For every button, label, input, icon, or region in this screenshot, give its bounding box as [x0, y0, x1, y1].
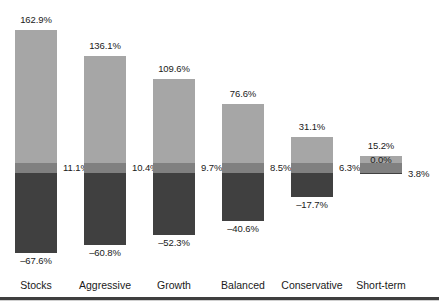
bar-label-average: 8.5% — [270, 162, 291, 173]
bar-label-low: 0.0% — [370, 154, 391, 165]
bar-segment-low — [222, 173, 264, 221]
bar-segment-low — [360, 173, 402, 174]
bar-label-low: –17.7% — [296, 199, 328, 210]
bar-segment-high — [153, 79, 195, 163]
category-label-aggressive: Aggressive — [79, 278, 131, 293]
bar-segment-high — [291, 137, 333, 163]
bar-label-high: 76.6% — [230, 88, 256, 99]
bar-label-low: –40.6% — [227, 223, 259, 234]
axis-baseline-shadow — [0, 300, 439, 301]
bar-group-short-term[interactable]: 15.2% 0.0% 3.8% — [360, 0, 402, 278]
bar-label-high: 162.9% — [20, 14, 52, 25]
bar-label-average: 9.7% — [201, 162, 222, 173]
bar-group-conservative[interactable]: 31.1% 6.3% –17.7% — [291, 0, 333, 278]
bar-label-high: 136.1% — [89, 40, 121, 51]
bar-segment-low — [84, 173, 126, 245]
bar-segment-average — [153, 163, 195, 173]
bar-group-growth[interactable]: 109.6% 9.7% –52.3% — [153, 0, 195, 278]
bar-label-average: 6.3% — [339, 162, 360, 173]
bar-label-low: –67.6% — [20, 255, 52, 266]
category-label-stocks: Stocks — [20, 278, 52, 293]
category-label-short-term: Short-term — [356, 278, 406, 293]
bar-group-balanced[interactable]: 76.6% 8.5% –40.6% — [222, 0, 264, 278]
bar-label-average: 3.8% — [408, 168, 429, 179]
bar-label-low: –60.8% — [89, 247, 121, 258]
bar-label-low: –52.3% — [158, 237, 190, 248]
bar-segment-average — [15, 163, 57, 173]
bar-segment-high — [15, 30, 57, 163]
bar-segment-low — [15, 173, 57, 253]
bar-segment-low — [153, 173, 195, 235]
bar-segment-average — [291, 163, 333, 173]
bar-segment-low — [291, 173, 333, 197]
category-label-growth: Growth — [157, 278, 191, 293]
bar-label-high: 15.2% — [368, 140, 394, 151]
category-label-balanced: Balanced — [221, 278, 265, 293]
bar-segment-average — [222, 163, 264, 173]
category-axis: Stocks Aggressive Growth Balanced Conser… — [0, 278, 439, 297]
bar-segment-high — [84, 56, 126, 163]
bar-label-high: 109.6% — [158, 63, 190, 74]
bar-group-stocks[interactable]: 162.9% 11.1% –67.6% — [15, 0, 57, 278]
plot-area: 162.9% 11.1% –67.6% 136.1% 10.4% –60.8% … — [0, 0, 439, 278]
bar-segment-average — [84, 163, 126, 173]
bar-group-aggressive[interactable]: 136.1% 10.4% –60.8% — [84, 0, 126, 278]
chart-container: 162.9% 11.1% –67.6% 136.1% 10.4% –60.8% … — [0, 0, 439, 303]
category-label-conservative: Conservative — [281, 278, 342, 293]
bar-segment-high — [222, 104, 264, 163]
bar-label-high: 31.1% — [299, 121, 325, 132]
